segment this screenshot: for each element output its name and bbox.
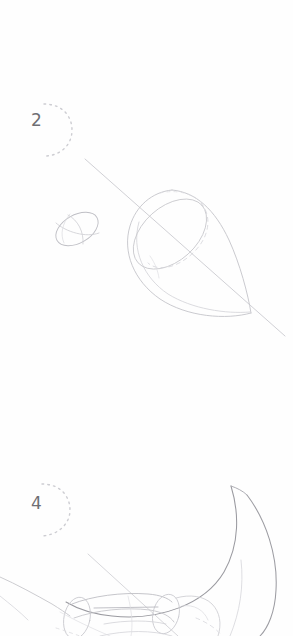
step-number-2: 2 <box>31 112 42 129</box>
tutorial-sheet: 2 4 <box>0 0 293 636</box>
step-4-dotted-circle <box>42 484 70 536</box>
step-4-marker <box>0 0 293 636</box>
step-number-4: 4 <box>31 495 42 512</box>
